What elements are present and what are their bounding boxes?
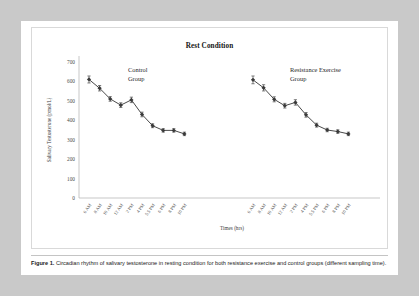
y-axis-tick: 300: [67, 137, 75, 143]
x-axis-tick: 10 AM: [266, 203, 277, 216]
series-annotation: Control: [128, 66, 148, 73]
y-axis-tick: 700: [67, 59, 75, 65]
y-axis-tick: 500: [67, 98, 75, 104]
x-axis-tick: 12 AM: [113, 203, 124, 216]
x-axis-tick: 5.5 PM: [308, 203, 320, 217]
y-axis-tick: 0: [72, 195, 75, 201]
figure-caption-text: Circadian rhythm of salivary testosteron…: [56, 260, 386, 266]
x-axis-tick: 8 PM: [331, 203, 341, 214]
x-axis-tick: 8 PM: [167, 203, 177, 214]
series-line: [89, 79, 184, 133]
document-page: Rest Condition 0100200300400500600700Sal…: [21, 21, 398, 275]
data-point-marker: [119, 103, 123, 107]
x-axis-tick: 4 PM: [135, 203, 145, 214]
line-chart: 0100200300400500600700Salivary Testoster…: [32, 28, 389, 250]
x-axis-tick: 2 PM: [289, 203, 299, 214]
x-axis-tick: 6 PM: [321, 203, 331, 214]
x-axis-tick: 5.5 PM: [144, 203, 156, 217]
x-axis-tick: 2 PM: [125, 203, 135, 214]
y-axis-tick: 200: [67, 156, 75, 162]
series-line: [253, 80, 348, 134]
series-annotation: Group: [290, 75, 306, 82]
x-axis-tick: 10 PM: [177, 203, 188, 216]
x-axis-tick: 12 AM: [277, 203, 288, 216]
data-point-marker: [283, 104, 287, 108]
caption-divider: [31, 255, 388, 256]
y-axis-title: Salivary Testosterone (pmol/L): [46, 97, 53, 162]
figure-caption: Figure 1. Circadian rhythm of salivary t…: [31, 259, 388, 268]
series-annotation: Group: [128, 75, 144, 82]
x-axis-tick: 10 AM: [102, 203, 113, 216]
y-axis-tick: 400: [67, 117, 75, 123]
x-axis-tick: 6 AM: [82, 203, 92, 215]
x-axis-title: Times (hrs): [220, 225, 244, 232]
x-axis-tick: 10 PM: [341, 203, 352, 216]
y-axis-tick: 600: [67, 78, 75, 84]
series-annotation: Resistance Exercise: [290, 66, 341, 73]
x-axis-tick: 4 PM: [299, 203, 309, 214]
x-axis-tick: 6 AM: [246, 203, 256, 215]
figure-caption-label: Figure 1.: [31, 260, 54, 266]
chart-plot-area: 0100200300400500600700Salivary Testoster…: [32, 28, 389, 250]
x-axis-tick: 6 PM: [157, 203, 167, 214]
chart-card: Rest Condition 0100200300400500600700Sal…: [31, 27, 388, 249]
y-axis-tick: 100: [67, 176, 75, 182]
